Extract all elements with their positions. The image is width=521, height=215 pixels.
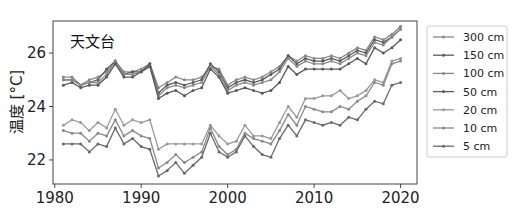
data-point	[243, 132, 246, 135]
data-point	[200, 156, 203, 159]
data-point	[131, 73, 134, 76]
data-point	[321, 57, 324, 60]
data-point	[269, 73, 272, 76]
data-point	[339, 105, 342, 108]
data-point	[174, 84, 177, 87]
data-point	[209, 126, 212, 129]
data-point	[356, 52, 359, 55]
data-point	[339, 124, 342, 127]
data-point	[235, 140, 238, 143]
data-point	[278, 121, 281, 124]
data-point	[321, 110, 324, 113]
data-point	[174, 81, 177, 84]
data-point	[356, 46, 359, 49]
data-point	[295, 134, 298, 137]
data-point	[131, 118, 134, 121]
data-point	[330, 60, 333, 63]
data-point	[140, 70, 143, 73]
data-point	[114, 108, 117, 111]
data-point	[373, 100, 376, 103]
data-point	[114, 62, 117, 65]
data-point	[105, 68, 108, 71]
data-point	[183, 78, 186, 81]
series-line	[62, 81, 402, 178]
data-point	[88, 129, 91, 132]
data-point	[243, 81, 246, 84]
data-point	[347, 108, 350, 111]
data-point	[261, 78, 264, 81]
data-point	[252, 134, 255, 137]
data-point	[79, 121, 82, 124]
data-point	[295, 73, 298, 76]
data-point	[373, 41, 376, 44]
data-point	[304, 105, 307, 108]
data-point	[140, 145, 143, 148]
data-point	[269, 78, 272, 81]
data-point	[226, 156, 229, 159]
data-point	[200, 81, 203, 84]
data-point	[200, 86, 203, 89]
data-point	[364, 62, 367, 65]
data-point	[131, 70, 134, 73]
data-point	[287, 124, 290, 127]
y-tick-label: 26	[27, 44, 46, 62]
legend-label: 100 cm	[463, 67, 504, 80]
data-point	[209, 65, 212, 68]
data-point	[278, 129, 281, 132]
data-point	[183, 142, 186, 145]
data-point	[71, 132, 74, 135]
data-point	[321, 62, 324, 65]
data-point	[390, 46, 393, 49]
data-point	[330, 54, 333, 57]
x-tick-label: 2000	[209, 189, 247, 207]
data-point	[166, 84, 169, 87]
data-point	[347, 62, 350, 65]
data-point	[304, 118, 307, 121]
data-point	[382, 84, 385, 87]
data-point	[62, 129, 65, 132]
data-point	[356, 49, 359, 52]
x-axis: 19801990200020102020	[36, 184, 420, 207]
data-point	[243, 124, 246, 127]
chart: 19801990200020102020 222426 天文台 温度 [°C] …	[0, 0, 521, 215]
data-point	[252, 78, 255, 81]
data-point	[373, 78, 376, 81]
data-point	[278, 137, 281, 140]
data-point	[304, 57, 307, 60]
data-point	[148, 137, 151, 140]
legend-label: 150 cm	[463, 49, 504, 62]
data-point	[313, 57, 316, 60]
data-point	[399, 57, 402, 60]
y-axis: 222426	[27, 44, 53, 169]
data-point	[330, 110, 333, 113]
data-point	[313, 108, 316, 111]
data-point	[339, 60, 342, 63]
data-point	[313, 60, 316, 63]
data-point	[321, 68, 324, 71]
data-point	[105, 126, 108, 129]
data-point	[269, 156, 272, 159]
data-point	[218, 134, 221, 137]
data-point	[339, 68, 342, 71]
data-point	[382, 52, 385, 55]
legend-label: 5 cm	[463, 140, 490, 153]
data-point	[88, 84, 91, 87]
data-point	[252, 145, 255, 148]
data-point	[62, 84, 65, 87]
data-point	[192, 164, 195, 167]
data-point	[382, 44, 385, 47]
data-point	[287, 54, 290, 57]
series-line	[62, 57, 402, 151]
data-point	[88, 140, 91, 143]
data-point	[174, 142, 177, 145]
data-point	[313, 68, 316, 71]
data-point	[269, 142, 272, 145]
data-point	[218, 150, 221, 153]
data-point	[105, 76, 108, 79]
data-point	[209, 62, 212, 65]
data-point	[157, 97, 160, 100]
data-point	[252, 89, 255, 92]
data-point	[399, 81, 402, 84]
data-point	[226, 153, 229, 156]
x-tick-label: 2020	[381, 189, 419, 207]
